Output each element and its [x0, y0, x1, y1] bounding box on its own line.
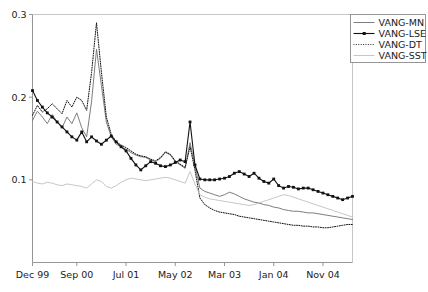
- series-marker: [56, 121, 59, 124]
- y-tick-label: 0.2: [11, 92, 26, 103]
- axis-frame: [33, 15, 353, 263]
- series-marker: [90, 135, 93, 138]
- series-marker: [326, 193, 329, 196]
- series-marker: [51, 116, 54, 119]
- series-marker: [61, 126, 64, 129]
- series-marker: [297, 188, 300, 191]
- series-marker: [149, 160, 152, 163]
- series-marker: [66, 130, 69, 133]
- series-marker: [75, 139, 78, 142]
- series-marker: [282, 187, 285, 190]
- series-line: [33, 91, 353, 200]
- axis-spines: [33, 15, 353, 263]
- series-marker: [189, 121, 192, 124]
- series-layer: [31, 23, 354, 228]
- series-marker: [159, 164, 162, 167]
- x-axis-ticks: Dec 99Sep 00Jul 01May 02Mar 03Jan 04Nov …: [16, 263, 340, 280]
- series-marker: [154, 162, 157, 165]
- series-marker: [198, 178, 201, 181]
- series-marker: [144, 164, 147, 167]
- series-marker: [203, 178, 206, 181]
- series-marker: [80, 130, 83, 133]
- series-marker: [272, 178, 275, 181]
- series-marker: [134, 164, 137, 167]
- series-marker: [346, 197, 349, 200]
- series-marker: [336, 197, 339, 200]
- x-tick-label: Nov 04: [306, 269, 340, 280]
- series-marker: [85, 140, 88, 143]
- series-marker: [228, 175, 231, 178]
- series-marker: [287, 185, 290, 188]
- x-tick-label: Mar 03: [208, 269, 241, 280]
- series-marker: [351, 195, 354, 198]
- series-marker: [312, 188, 315, 191]
- series-marker: [317, 190, 320, 193]
- series-line: [33, 172, 353, 217]
- x-tick-label: Sep 00: [60, 269, 93, 280]
- legend-label: VANG-LSE: [379, 28, 427, 39]
- series-marker: [277, 184, 280, 187]
- series-marker: [292, 186, 295, 189]
- series-marker: [125, 150, 128, 153]
- series-marker: [208, 178, 211, 181]
- y-tick-label: 0.1: [11, 174, 26, 185]
- x-tick-label: Jan 04: [258, 269, 289, 280]
- series-marker: [169, 164, 172, 167]
- series-marker: [213, 178, 216, 181]
- legend-label: VANG-MN: [379, 17, 425, 28]
- series-marker: [179, 159, 182, 162]
- series-marker: [36, 99, 39, 102]
- legend-label: VANG-SST: [379, 50, 427, 61]
- series-marker: [105, 139, 108, 142]
- series-marker: [267, 182, 270, 185]
- series-marker: [120, 145, 123, 148]
- series-marker: [218, 178, 221, 181]
- series-marker: [331, 195, 334, 198]
- series-marker: [322, 192, 325, 195]
- series-marker: [243, 173, 246, 176]
- series-vang-lse: [31, 89, 354, 201]
- series-marker: [262, 180, 265, 183]
- legend-label: VANG-DT: [379, 39, 423, 50]
- chart-container: 0.10.20.3 Dec 99Sep 00Jul 01May 02Mar 03…: [0, 0, 428, 292]
- series-marker: [253, 172, 256, 175]
- series-marker: [31, 89, 34, 92]
- series-marker: [41, 106, 44, 109]
- series-marker: [341, 198, 344, 201]
- line-chart: 0.10.20.3 Dec 99Sep 00Jul 01May 02Mar 03…: [0, 0, 428, 292]
- series-marker: [233, 172, 236, 175]
- series-marker: [70, 135, 73, 138]
- y-axis-ticks: 0.10.20.3: [11, 9, 32, 185]
- series-marker: [248, 175, 251, 178]
- x-tick-label: Dec 99: [16, 269, 50, 280]
- series-marker: [95, 140, 98, 143]
- series-marker: [164, 165, 167, 168]
- x-tick-label: May 02: [158, 269, 193, 280]
- y-tick-label: 0.3: [11, 9, 26, 20]
- axis-frame-top-right: [33, 15, 353, 263]
- series-marker: [238, 170, 241, 173]
- chart-legend: VANG-MNVANG-LSEVANG-DTVANG-SST: [351, 15, 427, 63]
- series-marker: [223, 177, 226, 180]
- series-marker: [302, 187, 305, 190]
- series-marker: [46, 111, 49, 114]
- series-marker: [100, 143, 103, 146]
- series-marker: [258, 177, 261, 180]
- x-tick-label: Jul 01: [112, 269, 140, 280]
- series-vang-sst: [33, 172, 353, 217]
- series-marker: [139, 169, 142, 172]
- legend-marker: [363, 32, 366, 35]
- series-marker: [307, 187, 310, 190]
- series-marker: [130, 157, 133, 160]
